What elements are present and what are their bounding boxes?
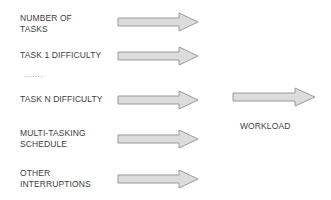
arrow-right-icon: [117, 129, 199, 149]
input-label-number-of-tasks: NUMBER OF TASKS: [20, 13, 72, 35]
arrow-right-icon: [117, 90, 199, 110]
arrow-right-icon: [117, 12, 199, 32]
input-label-task-1-difficulty: TASK 1 DIFFICULTY: [20, 50, 101, 61]
input-label-task-n-difficulty: TASK N DIFFICULTY: [20, 94, 103, 105]
ellipsis: .......: [24, 70, 43, 79]
input-label-other-interruptions: OTHER INTERRUPTIONS: [20, 168, 91, 190]
output-arrow-right-icon: [232, 87, 316, 107]
input-label-multi-tasking-schedule: MULTI-TASKING SCHEDULE: [20, 128, 86, 150]
arrow-right-icon: [117, 169, 199, 189]
output-label-workload: WORKLOAD: [240, 121, 290, 132]
arrow-right-icon: [117, 46, 199, 66]
